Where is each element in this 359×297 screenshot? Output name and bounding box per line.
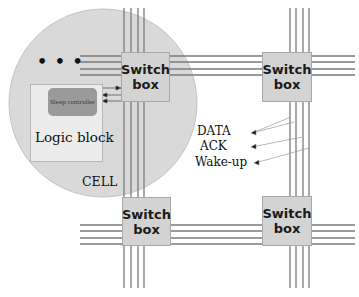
- switch-box-line1: Switch: [121, 62, 170, 77]
- switch-box-line2: box: [133, 222, 160, 237]
- ellipsis-dots: • • •: [37, 52, 84, 71]
- switch-box-line1: Switch: [263, 62, 312, 77]
- switch-box-line2: box: [274, 221, 301, 236]
- sleep-controller: Sleep controller: [48, 88, 97, 116]
- fpga-cell-diagram: • • • Sleep controller Logic block CELL …: [0, 0, 359, 297]
- signal-pointers: [251, 117, 309, 165]
- switch-box-top-right: Switch box: [262, 52, 312, 102]
- switch-box-line1: Switch: [122, 207, 171, 222]
- switch-box-line2: box: [132, 77, 159, 92]
- logic-block-label: Logic block: [35, 129, 114, 145]
- signal-ack-label: ACK: [200, 139, 227, 153]
- sleep-controller-label: Sleep controller: [50, 99, 95, 105]
- switch-box-line2: box: [274, 77, 301, 92]
- switch-box-top-left: Switch box: [121, 52, 170, 102]
- switch-box-line1: Switch: [263, 206, 312, 221]
- signal-data-label: DATA: [197, 124, 231, 138]
- switch-box-bottom-left: Switch box: [122, 197, 171, 246]
- cell-label: CELL: [82, 174, 117, 189]
- signal-wakeup-label: Wake-up: [195, 155, 247, 169]
- switch-box-bottom-right: Switch box: [262, 196, 312, 246]
